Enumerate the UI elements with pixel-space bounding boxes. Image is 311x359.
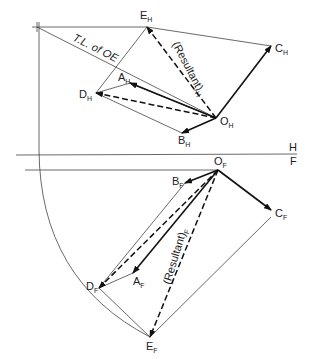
vector-od-f xyxy=(99,170,218,288)
labels: EH CH AH DH OH BH T.L. of OE (Resultant)… xyxy=(71,9,297,354)
df-af-line xyxy=(99,273,133,288)
vector-oc-h xyxy=(216,46,271,118)
resultant-f xyxy=(150,170,218,337)
label-fold-f: F xyxy=(290,155,297,167)
fold-lines xyxy=(16,154,297,170)
vector-oc-f xyxy=(218,170,271,210)
hf-fold-line xyxy=(16,154,297,155)
label-fold-h: H xyxy=(289,141,297,153)
construction-lines xyxy=(32,22,271,337)
eh-dh-line xyxy=(96,27,147,93)
label-d-f: DF xyxy=(86,280,98,294)
label-b-h: BH xyxy=(178,134,190,148)
label-resultant-h: (Resultant)H xyxy=(168,39,208,98)
vector-diagram: EH CH AH DH OH BH T.L. of OE (Resultant)… xyxy=(0,0,311,359)
label-a-f: AF xyxy=(133,275,145,289)
label-c-h: CH xyxy=(275,42,288,56)
label-d-h: DH xyxy=(79,88,92,102)
eh-ch-line xyxy=(147,27,271,46)
label-c-f: CF xyxy=(275,207,287,221)
vector-ob-h xyxy=(182,118,216,133)
front-view xyxy=(99,170,271,337)
label-b-f: BF xyxy=(172,175,184,189)
df-ef-line xyxy=(99,288,150,337)
label-o-h: OH xyxy=(220,115,234,129)
label-o-f: OF xyxy=(214,155,227,169)
label-e-f: EF xyxy=(146,340,158,354)
label-e-h: EH xyxy=(140,9,152,23)
